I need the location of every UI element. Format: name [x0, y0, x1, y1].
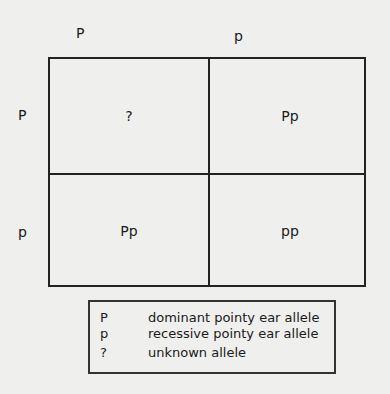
- cell-top-left: ?: [109, 108, 149, 124]
- side-allele-2: p: [18, 224, 27, 240]
- punnett-square: ? Pp Pp pp: [48, 57, 366, 287]
- side-allele-1: P: [18, 107, 26, 123]
- cell-top-right: Pp: [270, 108, 310, 124]
- legend-symbol: ?: [100, 345, 140, 360]
- legend-symbol: p: [100, 326, 140, 341]
- cell-bottom-right: pp: [270, 223, 310, 239]
- grid-divider-horizontal: [50, 173, 364, 175]
- legend-text: recessive pointy ear allele: [148, 326, 318, 341]
- legend-text: dominant pointy ear allele: [148, 310, 319, 325]
- legend: P dominant pointy ear allele p recessive…: [88, 300, 336, 374]
- cell-bottom-left: Pp: [109, 223, 149, 239]
- legend-text: unknown allele: [148, 345, 246, 360]
- legend-symbol: P: [100, 310, 140, 325]
- top-allele-1: P: [76, 25, 84, 41]
- top-allele-2: p: [234, 28, 243, 44]
- grid-divider-vertical: [208, 59, 210, 285]
